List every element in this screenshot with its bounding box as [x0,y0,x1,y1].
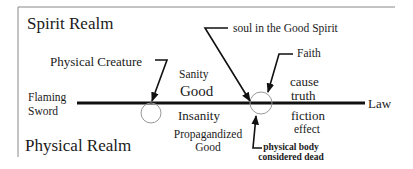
flaming-sword-label-line2: Sword [28,106,58,118]
spirit-physical-realm-diagram: Spirit Realm Physical Realm Flaming Swor… [0,0,413,169]
effect-label: effect [294,124,320,136]
soul-label: soul in the Good Spirit [233,23,338,35]
cause-label: cause [290,75,319,88]
flaming-sword-label-line1: Flaming [28,92,66,104]
sanity-label: Sanity [179,69,208,81]
physical-creature-circle [141,103,161,123]
truth-label: truth [291,89,316,102]
propagandized-label-line1: Propagandized [170,129,246,141]
physical-creature-label: Physical Creature [50,55,142,68]
physical-body-label: physical body considered dead [258,143,324,163]
propagandized-good-label: Propagandized Good [170,129,246,153]
faith-label: Faith [297,48,321,60]
fiction-label: fiction [291,109,325,122]
law-label: Law [368,97,391,110]
good-label: Good [180,84,213,99]
insanity-label: Insanity [178,109,220,122]
physical-realm-title: Physical Realm [25,137,131,154]
spirit-realm-title: Spirit Realm [27,15,113,32]
propagandized-label-line2: Good [170,142,246,154]
physical-creature-arrow [152,60,167,101]
physical-body-label-line2: considered dead [258,153,324,163]
